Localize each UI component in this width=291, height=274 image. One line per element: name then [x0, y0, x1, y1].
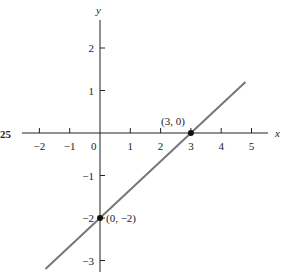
y-axis-ticks: 21−1−2−3 [82, 42, 105, 267]
y-axis-label: y [95, 4, 101, 16]
data-line [45, 82, 245, 269]
data-point [97, 215, 103, 221]
point-label: (0, −2) [106, 212, 136, 225]
x-axis-ticks: −2−112345 [34, 128, 255, 152]
x-tick-label: 1 [128, 140, 134, 152]
figure-number: 25 [0, 128, 12, 140]
x-tick-label: 4 [218, 140, 224, 152]
y-tick-label: −1 [82, 170, 94, 182]
point-label: (3, 0) [161, 115, 185, 128]
y-tick-label: −3 [82, 255, 94, 267]
y-tick-label: 2 [89, 42, 95, 54]
origin-label: 0 [91, 140, 97, 152]
data-point [188, 130, 194, 136]
line-graph: 25 −2−112345 21−1−2−3 x y 0 (3, 0)(0, −2… [0, 0, 291, 274]
x-tick-label: 5 [249, 140, 255, 152]
x-tick-label: −1 [64, 140, 76, 152]
x-tick-label: 2 [158, 140, 164, 152]
x-axis-label: x [274, 127, 280, 139]
y-tick-label: 1 [89, 85, 95, 97]
y-tick-label: −2 [82, 212, 94, 224]
x-tick-label: −2 [34, 140, 46, 152]
x-tick-label: 3 [188, 140, 194, 152]
